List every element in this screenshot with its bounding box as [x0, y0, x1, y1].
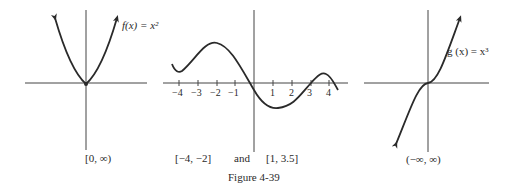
middle-graph	[163, 10, 348, 152]
tick-label-2: 2	[289, 87, 294, 98]
left-interval-label: [0, ∞)	[85, 152, 111, 164]
wave-curve	[172, 43, 338, 108]
middle-interval-label-1: [−4, −2]	[175, 152, 211, 164]
figure-caption: Figure 4-39	[228, 171, 280, 183]
left-graph	[25, 10, 147, 150]
middle-conjunction: and	[234, 152, 250, 164]
vertex-point	[84, 82, 88, 86]
tick-label-neg2: −2	[210, 87, 221, 98]
right-graph	[364, 10, 489, 152]
tick-label-1: 1	[270, 87, 275, 98]
tick-label-neg3: −3	[191, 87, 202, 98]
tick-label-neg4: −4	[172, 87, 183, 98]
tick-label-3: 3	[307, 87, 312, 98]
right-interval-label: (−∞, ∞)	[406, 153, 441, 165]
tick-label-neg1: −1	[228, 87, 239, 98]
middle-interval-label-2: [1, 3.5]	[266, 152, 298, 164]
tick-label-4: 4	[326, 87, 331, 98]
left-function-label: f(x) = x²	[122, 19, 158, 31]
right-function-label: g (x) = x³	[447, 45, 489, 57]
